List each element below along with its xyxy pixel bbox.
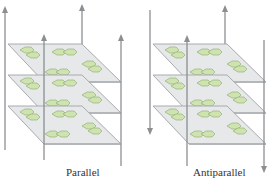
strand-arrow-up bbox=[79, 4, 85, 44]
antiparallel-label: Antiparallel bbox=[193, 166, 246, 178]
parallel-label: Parallel bbox=[66, 166, 100, 178]
antiparallel-panel bbox=[147, 5, 267, 173]
strand-arrow-up bbox=[2, 6, 8, 150]
strand-arrow-up bbox=[222, 5, 228, 44]
parallel-panel bbox=[2, 4, 124, 166]
strand-arrow-down bbox=[147, 10, 153, 135]
strand-arrow-up bbox=[118, 34, 124, 166]
diagram-canvas bbox=[0, 0, 272, 188]
strand-arrow-down bbox=[261, 40, 267, 173]
